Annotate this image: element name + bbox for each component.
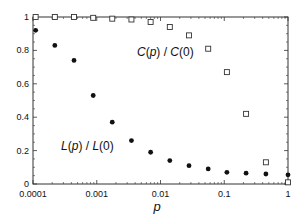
series-clustering	[33, 15, 290, 185]
tick-labels: 0.00010.0010.010.1100.20.40.60.81	[16, 12, 290, 199]
x-tick-label: 0.001	[85, 189, 108, 199]
data-point-clustering	[91, 15, 96, 20]
data-point-clustering	[72, 15, 77, 20]
x-tick-label: 1	[285, 189, 290, 199]
x-axis-title: p	[152, 199, 160, 214]
data-point-path-length	[187, 163, 192, 168]
y-tick-label: 1	[24, 12, 29, 22]
data-point-clustering	[110, 16, 115, 21]
axes	[33, 17, 288, 184]
x-tick-label: 0.0001	[19, 189, 47, 199]
data-point-clustering	[224, 70, 229, 75]
y-tick-label: 0.6	[16, 79, 29, 89]
data-point-path-length	[72, 58, 77, 63]
data-point-clustering	[263, 160, 268, 165]
y-tick-label: 0.8	[16, 45, 29, 55]
data-point-path-length	[110, 120, 115, 125]
data-point-clustering	[129, 17, 134, 22]
data-point-clustering	[167, 25, 172, 30]
data-point-path-length	[206, 167, 211, 172]
data-point-clustering	[244, 111, 249, 116]
annotation-clustering: C(p) / C(0)	[137, 45, 194, 59]
data-point-path-length	[91, 93, 96, 98]
axis-ticks	[33, 17, 288, 184]
data-point-path-length	[286, 172, 291, 177]
data-point-path-length	[244, 171, 249, 176]
data-point-clustering	[206, 46, 211, 51]
annotation-path-length: L(p) / L(0)	[61, 139, 114, 153]
data-point-path-length	[148, 150, 153, 155]
data-point-path-length	[263, 172, 268, 177]
data-point-clustering	[187, 33, 192, 38]
data-point-path-length	[129, 138, 134, 143]
data-point-path-length	[52, 43, 57, 48]
data-point-path-length	[167, 158, 172, 163]
plot-frame	[33, 17, 288, 184]
data-point-clustering	[148, 20, 153, 25]
y-tick-label: 0.4	[16, 112, 29, 122]
x-tick-label: 0.1	[218, 189, 231, 199]
data-point-path-length	[33, 28, 38, 33]
y-tick-label: 0	[24, 179, 29, 189]
data-point-path-length	[224, 170, 229, 175]
chart: 0.00010.0010.010.1100.20.40.60.81 C(p) /…	[0, 0, 307, 224]
y-tick-label: 0.2	[16, 146, 29, 156]
data-point-clustering	[33, 15, 38, 20]
data-point-clustering	[52, 15, 57, 20]
x-tick-label: 0.01	[152, 189, 170, 199]
data-point-clustering	[286, 180, 291, 185]
